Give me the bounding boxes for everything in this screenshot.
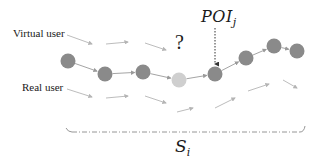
- virtual-user-arrow: [145, 43, 166, 50]
- virtual-user-arrow: [67, 35, 92, 44]
- trajectory-node: [267, 39, 282, 54]
- trajectory-edge: [222, 62, 239, 71]
- trajectory-edge: [186, 75, 206, 78]
- trajectory-edge: [150, 74, 170, 79]
- real-user-arrow: [215, 98, 235, 108]
- real-user-arrow: [67, 89, 92, 97]
- trajectory-edge: [112, 72, 134, 73]
- real-user-arrow: [145, 96, 166, 103]
- trajectory-node: [239, 51, 254, 66]
- trajectory-edge: [75, 63, 97, 71]
- trajectory-node: [290, 44, 305, 59]
- real-user-arrow: [283, 80, 297, 88]
- poi-label: POIj: [201, 7, 237, 29]
- trajectory-node: [61, 54, 76, 69]
- trajectory-node: [98, 67, 113, 82]
- segment-label: Si: [175, 136, 190, 159]
- real-user-label: Real user: [22, 81, 63, 93]
- trajectory-edge: [281, 48, 288, 50]
- trajectory-edge: [253, 49, 266, 55]
- poi-label-sub: j: [233, 16, 237, 29]
- missing-location-node: [172, 73, 187, 88]
- real-user-arrow: [106, 96, 128, 98]
- trajectory-diagram: Virtual user Real user ? POIj Si: [0, 0, 322, 163]
- virtual-user-arrows: [67, 35, 166, 50]
- poi-node: [208, 67, 223, 82]
- trajectory-node: [136, 65, 151, 80]
- virtual-user-arrow: [106, 42, 128, 44]
- poi-label-base: POI: [201, 7, 233, 26]
- real-user-arrow: [248, 84, 269, 91]
- segment-label-base: S: [175, 136, 187, 156]
- real-user-arrow: [177, 108, 193, 112]
- virtual-user-label: Virtual user: [13, 27, 65, 39]
- segment-brace: [66, 126, 305, 132]
- segment-label-sub: i: [187, 146, 191, 159]
- unknown-location-mark: ?: [175, 31, 184, 54]
